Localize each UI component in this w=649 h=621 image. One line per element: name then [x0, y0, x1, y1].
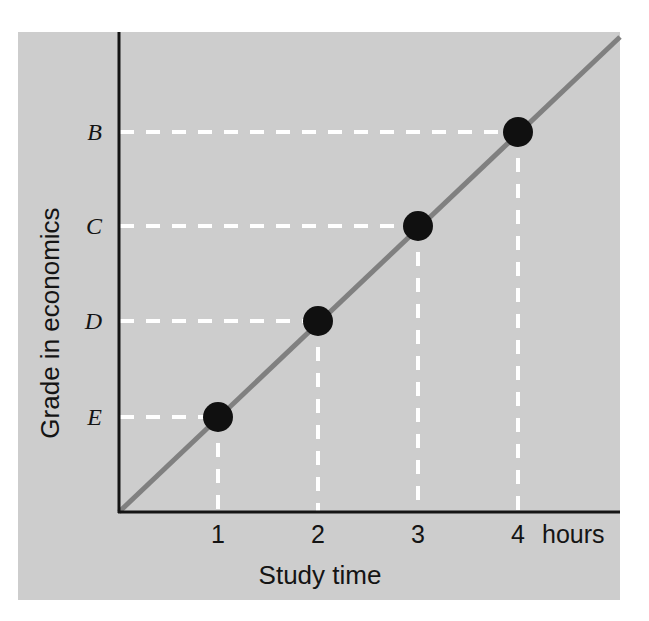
y-tick-label-C: C: [62, 214, 102, 238]
x-tick-label-3: 3: [398, 522, 438, 547]
data-point-3-C: [403, 211, 433, 241]
x-tick-label-4: 4: [498, 522, 538, 547]
y-tick-label-E: E: [62, 405, 102, 429]
y-tick-label-D: D: [62, 309, 102, 333]
trend-line: [119, 37, 620, 512]
x-axis-unit-label: hours: [542, 522, 605, 547]
x-tick-label-2: 2: [298, 522, 338, 547]
y-tick-label-B: B: [62, 120, 102, 144]
x-tick-label-1: 1: [198, 522, 238, 547]
chart-figure: B C D E 1 2 3 4 hours Study time Grade i…: [0, 0, 649, 621]
data-point-2-D: [303, 306, 333, 336]
data-point-1-E: [203, 402, 233, 432]
y-axis-title: Grade in economics: [37, 153, 63, 493]
x-axis-title: Study time: [120, 562, 520, 588]
data-point-4-B: [503, 117, 533, 147]
